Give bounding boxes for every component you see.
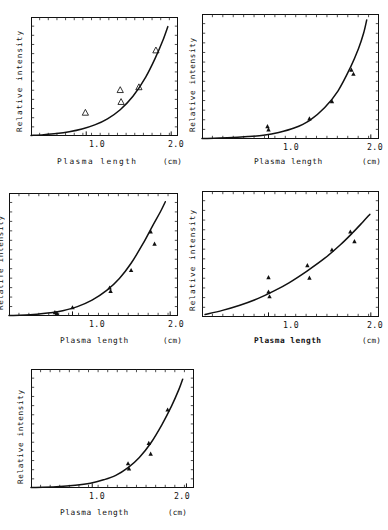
data-point-marker: [307, 276, 311, 280]
data-point-marker: [148, 452, 152, 456]
plot-panel-5: Relative intensity 1.0 2.0 Plasma length…: [0, 360, 194, 530]
data-point-marker: [153, 47, 159, 53]
x-tick-label-1-0: 1.0: [89, 139, 105, 149]
data-point-marker: [330, 247, 334, 251]
x-axis-label-5: Plasma length: [60, 508, 129, 517]
x-tick-label-3-1: 2.0: [168, 319, 184, 329]
data-point-marker: [82, 109, 88, 115]
plot-panel-1: Relative intensity 1.0 2.0 Plasma length…: [0, 0, 194, 175]
x-axis-unit-2: (cm): [362, 157, 381, 166]
data-point-marker: [118, 99, 124, 105]
data-point-marker: [351, 72, 355, 76]
data-point-marker: [307, 116, 311, 120]
plot-panel-4: Relative intensity 1.0 2.0 Plasma length…: [194, 188, 388, 363]
x-axis-label-4: Plasma length: [254, 336, 322, 345]
x-axis-unit-4: (cm): [362, 336, 381, 345]
x-tick-label-1-1: 2.0: [168, 139, 184, 149]
x-axis-unit-3: (cm): [163, 336, 182, 345]
y-axis-label-4: Relative intensity: [188, 203, 197, 311]
data-point-marker: [352, 239, 356, 243]
x-axis-unit-1: (cm): [163, 157, 182, 166]
figure-sheet: Relative intensity 1.0 2.0 Plasma length…: [0, 0, 388, 530]
x-tick-label-4-1: 2.0: [367, 320, 383, 330]
y-axis-label-5: Relative intensity: [16, 380, 25, 484]
y-axis-label-3: Relatife intensity: [0, 206, 5, 310]
data-point-marker: [126, 461, 130, 465]
x-tick-label-2-1: 2.0: [367, 142, 383, 152]
y-axis-label-1: Relative intensity: [15, 28, 24, 132]
data-point-marker: [348, 229, 352, 233]
x-axis-label-2: Plasma length: [254, 157, 323, 166]
plot-panel-2: Relative intensity 1.0 2.0 Plasma length…: [194, 0, 388, 175]
y-axis-label-2: Relative intensity: [188, 28, 197, 132]
plot-canvas-5: [0, 360, 194, 530]
x-tick-label-5-1: 2.0: [174, 491, 190, 501]
data-point-marker: [129, 268, 133, 272]
data-point-marker: [305, 263, 309, 267]
data-point-marker: [152, 242, 156, 246]
data-point-marker: [117, 87, 123, 93]
x-axis-label-1: Plasma length: [57, 157, 138, 166]
x-tick-label-2-0: 1.0: [283, 142, 299, 152]
x-tick-label-5-0: 1.0: [89, 491, 105, 501]
data-point-marker: [265, 124, 269, 128]
x-tick-label-3-0: 1.0: [89, 319, 105, 329]
x-axis-unit-5: (cm): [168, 508, 187, 517]
plot-panel-3: Relatife intensity 1.0 2.0 Plasma length…: [0, 188, 194, 363]
x-axis-label-3: Plasma length: [60, 336, 129, 345]
data-point-marker: [266, 275, 270, 279]
data-point-marker: [266, 289, 270, 293]
x-tick-label-4-0: 1.0: [283, 320, 299, 330]
